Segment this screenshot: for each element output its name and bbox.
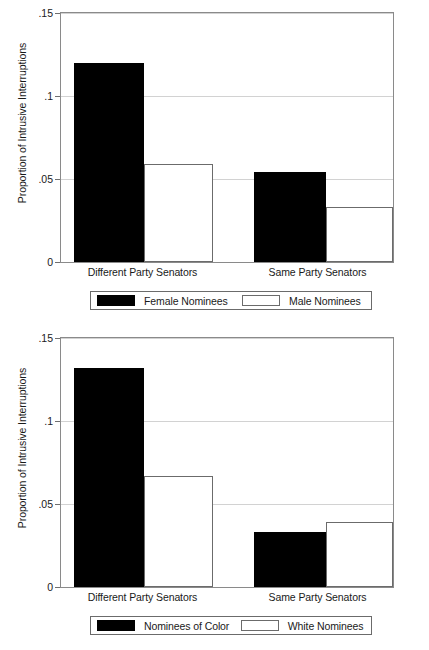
legend-label-nominees-of-color: Nominees of Color (144, 620, 229, 632)
x-category-label-different-party: Different Party Senators (60, 591, 225, 603)
tick-mark-005 (55, 179, 60, 180)
legend-top: Female Nominees Male Nominees (90, 291, 372, 310)
y-tick-label-015: .15 (38, 333, 53, 344)
y-axis-title: Proportion of Intrusive Interruptions (16, 318, 32, 578)
y-tick-label-01: .1 (44, 91, 53, 102)
legend-swatch-solid-icon (97, 295, 135, 306)
tick-mark-0 (55, 587, 60, 588)
bar-white-nominees-same-party (326, 522, 393, 587)
y-tick-label-0: 0 (47, 257, 53, 268)
bar-male-different-party (144, 164, 213, 262)
gridline-015 (61, 13, 393, 14)
legend-item-nominees-of-color: Nominees of Color (97, 620, 231, 632)
tick-mark-01 (55, 421, 60, 422)
legend-item-male-nominees: Male Nominees (232, 295, 365, 307)
x-category-label-same-party: Same Party Senators (240, 591, 395, 603)
tick-mark-015 (55, 13, 60, 14)
legend-swatch-hollow-icon (242, 295, 280, 306)
plot-area-top: .15 .1 .05 0 (60, 12, 394, 263)
legend-swatch-hollow-icon (241, 620, 279, 631)
y-tick-label-0: 0 (47, 582, 53, 593)
legend-item-white-nominees: White Nominees (231, 620, 365, 632)
figure-two-bar-panels: Proportion of Intrusive Interruptions .1… (0, 0, 429, 650)
y-axis-title: Proportion of Intrusive Interruptions (16, 0, 32, 253)
bar-white-nominees-different-party (144, 476, 213, 587)
y-tick-label-005: .05 (38, 174, 53, 185)
legend-item-female-nominees: Female Nominees (97, 295, 232, 307)
chart-panel-top: Proportion of Intrusive Interruptions .1… (0, 0, 429, 325)
legend-bottom: Nominees of Color White Nominees (90, 616, 372, 635)
tick-mark-015 (55, 338, 60, 339)
y-tick-label-005: .05 (38, 499, 53, 510)
bar-nominees-of-color-different-party (74, 368, 144, 587)
bar-female-same-party (254, 172, 326, 262)
chart-panel-bottom: Proportion of Intrusive Interruptions .1… (0, 325, 429, 650)
tick-mark-01 (55, 96, 60, 97)
legend-label-female-nominees: Female Nominees (144, 295, 228, 307)
gridline-015 (61, 338, 393, 339)
legend-label-male-nominees: Male Nominees (289, 295, 361, 307)
tick-mark-005 (55, 504, 60, 505)
bar-male-same-party (326, 207, 393, 262)
x-category-label-different-party: Different Party Senators (60, 266, 225, 278)
plot-area-bottom: .15 .1 .05 0 (60, 337, 394, 588)
x-category-label-same-party: Same Party Senators (240, 266, 395, 278)
bar-female-different-party (74, 63, 144, 262)
legend-swatch-solid-icon (97, 620, 135, 631)
y-tick-label-01: .1 (44, 416, 53, 427)
tick-mark-0 (55, 262, 60, 263)
bar-nominees-of-color-same-party (254, 532, 326, 587)
y-tick-label-015: .15 (38, 8, 53, 19)
legend-label-white-nominees: White Nominees (288, 620, 364, 632)
